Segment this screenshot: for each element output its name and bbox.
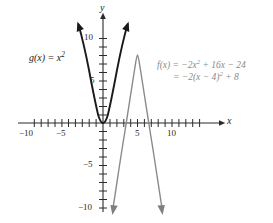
y-axis-label: y — [100, 2, 104, 13]
curve-f-annotation-line1-lead: f(x) = −2x — [157, 60, 197, 70]
curve-g-annotation: g(x) = x2 — [29, 52, 65, 65]
x-axis-label: x — [227, 115, 231, 126]
curve-f-annotation-line2-lead: = −2(x − 4) — [173, 72, 219, 82]
curve-g-annotation-text: g(x) = x — [29, 52, 61, 63]
curve-f-annotation-line1: f(x) = −2x2 + 16x − 24 — [157, 60, 246, 70]
x-axis — [18, 119, 222, 127]
curve-f-annotation-line2: = −2(x − 4)2 + 8 — [157, 72, 246, 84]
curve-g-annotation-exponent: 2 — [61, 51, 65, 59]
y-tick-label-10: 10 — [84, 32, 93, 42]
x-tick-label-10: 10 — [167, 128, 176, 138]
curve-f-arrowheads — [109, 204, 166, 215]
y-tick-label-5: 5 — [90, 75, 95, 85]
curve-f-annotation: f(x) = −2x2 + 16x − 24 = −2(x − 4)2 + 8 — [157, 60, 246, 84]
x-tick-label-neg5: −5 — [56, 128, 66, 138]
curve-f-annotation-line2-tail: + 8 — [223, 72, 239, 82]
y-axis — [99, 16, 107, 212]
coordinate-plane-svg — [0, 0, 273, 223]
y-tick-label-neg5: −5 — [83, 159, 93, 169]
y-tick-label-neg10: −10 — [78, 202, 92, 212]
graph-figure: y x −10 −5 5 10 10 5 −5 −10 g(x) = x2 f(… — [0, 0, 273, 223]
x-tick-label-neg10: −10 — [19, 128, 33, 138]
curve-f-annotation-line1-tail: + 16x − 24 — [200, 60, 246, 70]
x-tick-label-5: 5 — [135, 128, 140, 138]
